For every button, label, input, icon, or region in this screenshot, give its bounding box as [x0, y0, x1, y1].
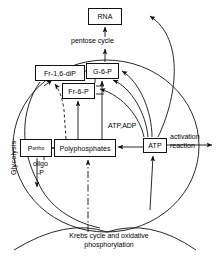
node-atp-label: ATP: [148, 142, 161, 149]
label-pentose-cycle: pentose cycle: [71, 37, 114, 45]
node-p-ortho-subscript: ortho: [32, 146, 44, 151]
diagram-canvas: RNA Fr-1,6-diP G-6-P Fr-6-P Polyphosphat…: [0, 0, 219, 258]
arrow-atp-to-rna: [150, 16, 174, 137]
label-glycolysis: Glycolysis: [10, 140, 17, 175]
label-atp-adp-text: ATP,ADP: [108, 122, 137, 129]
label-oligo-p: oligo -P: [33, 160, 48, 178]
node-rna-label: RNA: [97, 13, 112, 20]
node-fr-1-6-dip-label: Fr-1,6-diP: [44, 70, 76, 77]
label-krebs-cycle-text: Krebs cycle and oxidative phosphorylatio…: [69, 232, 148, 248]
label-krebs-cycle: Krebs cycle and oxidative phosphorylatio…: [69, 232, 148, 250]
node-g-6-p-label: G-6-P: [93, 68, 112, 75]
label-glycolysis-text: Glycolysis: [10, 140, 17, 175]
label-atp-adp: ATP,ADP: [108, 122, 137, 130]
label-activation-reaction-text: activation reaction: [170, 133, 200, 149]
label-activation-reaction: activation reaction: [170, 133, 200, 151]
node-polyphosphates[interactable]: Polyphosphates: [54, 139, 116, 157]
node-atp[interactable]: ATP: [143, 138, 167, 153]
node-rna[interactable]: RNA: [88, 8, 122, 25]
node-fr-1-6-dip[interactable]: Fr-1,6-diP: [35, 65, 85, 81]
node-fr-6-p[interactable]: Fr-6-P: [62, 83, 95, 99]
glycolysis-lower-arc: [38, 182, 100, 228]
node-g-6-p[interactable]: G-6-P: [86, 63, 119, 79]
node-fr-6-p-label: Fr-6-P: [68, 88, 88, 95]
arrow-krebs-to-atp: [150, 156, 153, 210]
label-pentose-cycle-text: pentose cycle: [71, 37, 114, 44]
label-oligo-p-text: oligo -P: [33, 160, 48, 176]
node-p-ortho[interactable]: Portho: [20, 139, 52, 157]
node-polyphosphates-label: Polyphosphates: [59, 145, 110, 152]
